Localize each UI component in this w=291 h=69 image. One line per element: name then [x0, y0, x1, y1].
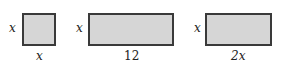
- figure-2-side-label: x: [76, 22, 83, 34]
- figure-3-rectangle: [205, 13, 272, 46]
- figure-1-side-label: x: [9, 22, 16, 34]
- figure-3-bottom-label: 2x: [231, 50, 245, 62]
- figure-3-side-label: x: [194, 22, 201, 34]
- figure-1-square: [22, 13, 56, 46]
- figure-2-rectangle: [88, 13, 174, 46]
- figure-1-bottom-label: x: [36, 50, 43, 62]
- figure-2-bottom-label: 12: [124, 50, 139, 62]
